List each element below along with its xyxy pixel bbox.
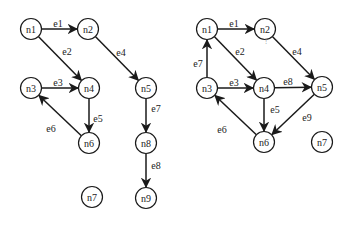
node-n1: n1 [197,19,218,40]
node-n2: n2 [78,19,99,40]
node-label: n7 [317,137,327,148]
edge-line [214,37,256,81]
node-n6: n6 [254,132,275,153]
node-label: n1 [26,24,36,35]
node-n1: n1 [21,19,42,40]
edge-label: e2 [235,46,244,57]
edge-e2-n1-n4: e2 [214,37,256,81]
edge-label: e8 [283,76,292,87]
graph-diagram: e1e2e3e4e5e6e7e8n1n2n3n4n5n6n7n8n9 e1e2e… [0,0,361,225]
node-label: n7 [87,192,97,203]
edge-e6-n6-n3: e6 [215,96,256,135]
annotation-mark: ! [265,37,268,46]
edges: e1e2e3e4e5e6e7e8 [38,18,160,188]
node-label: n2 [83,24,93,35]
node-n9: n9 [136,188,157,209]
edge-label: e5 [93,113,102,124]
node-label: n2 [260,24,270,35]
node-label: n6 [84,138,94,149]
edge-label: e6 [217,124,226,135]
edge-e8-n8-n9: e8 [146,154,161,188]
edge-line [272,36,314,79]
node-n6: n6 [79,133,100,154]
edge-line [38,36,81,80]
node-n3: n3 [21,78,42,99]
edge-e4-n2-n5: e4 [95,36,138,80]
node-n3: n3 [197,78,218,99]
edge-e4-n2-n5: e4 [272,36,314,79]
node-label: n5 [141,83,151,94]
edge-e8-n4-n5: e8 [274,76,311,88]
left-graph: e1e2e3e4e5e6e7e8n1n2n3n4n5n6n7n8n9 [21,18,161,209]
node-label: n9 [141,193,151,204]
node-label: n1 [202,24,212,35]
edge-e5-n4-n6: e5 [264,99,280,132]
node-label: n5 [317,82,327,93]
edge-e3-n3-n4: e3 [218,77,254,89]
edge-e1-n1-n2: e1 [42,18,78,30]
edge-e6-n6-n3: e6 [39,96,81,136]
edge-line [274,87,311,88]
edge-label: e3 [53,77,62,88]
node-n7: n7 [312,132,333,153]
edge-line [95,36,138,80]
edge-label: e6 [46,123,55,134]
edge-e5-n4-n6: e5 [89,99,103,133]
node-n5: n5 [312,77,333,98]
node-label: n6 [259,137,269,148]
node-label: n4 [84,83,94,94]
edge-label: e9 [302,112,311,123]
node-label: n4 [259,83,269,94]
node-n4: n4 [79,78,100,99]
edge-label: e8 [151,160,160,171]
node-label: n8 [141,138,151,149]
node-n4: n4 [254,78,275,99]
right-graph: e1e2e3e4e5e6e7e8e9n1n2n3n4n5n6n7! [193,18,332,153]
edge-label: e3 [229,77,238,88]
edge-e2-n1-n4: e2 [38,36,81,80]
edge-e1-n1-n2: e1 [218,18,255,30]
edge-label: e4 [116,47,125,58]
node-n5: n5 [136,78,157,99]
edge-e7-n5-n8: e7 [146,99,161,133]
node-label: n3 [202,83,212,94]
edge-e7-n3-n1: e7 [193,40,207,78]
node-n8: n8 [136,133,157,154]
edge-label: e2 [62,46,71,57]
edge-label: e5 [270,104,279,115]
edge-label: e1 [53,18,62,29]
node-label: n3 [26,83,36,94]
node-n7: n7 [82,187,103,208]
edge-e3-n3-n4: e3 [42,77,79,89]
edge-label: e4 [292,46,301,57]
edge-label: e7 [151,103,160,114]
edge-label: e7 [193,58,202,69]
edge-label: e1 [229,18,238,29]
